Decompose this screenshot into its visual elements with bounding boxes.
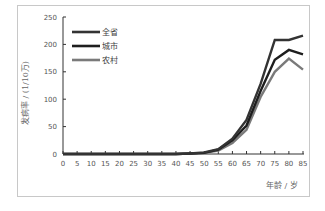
y-tick-label: 250 [44,14,57,22]
x-tick-label: 85 [299,160,308,168]
x-tick-label: 65 [242,160,251,168]
x-tick-label: 20 [115,160,124,168]
y-tick-label: 0 [53,151,57,159]
legend-label: 农村 [102,55,118,65]
x-tick-label: 80 [284,160,293,168]
x-tick-label: 40 [171,160,180,168]
axes: 0501001502002500510152025303540455055606… [44,14,308,169]
x-tick-label: 25 [129,160,138,168]
y-tick-label: 50 [48,123,57,131]
y-tick-label: 200 [44,41,57,49]
x-tick-label: 35 [157,160,166,168]
x-tick-label: 10 [87,160,96,168]
x-tick-label: 60 [228,160,237,168]
line-chart: 0501001502002500510152025303540455055606… [0,0,325,211]
x-tick-label: 0 [61,160,65,168]
y-tick-label: 100 [44,96,57,104]
x-tick-label: 5 [75,160,79,168]
x-axis-label: 年龄 / 岁 [266,180,298,190]
x-tick-label: 55 [214,160,223,168]
series-lines [63,36,303,154]
legend: 全省城市农村 [72,27,118,65]
legend-label: 全省 [102,27,118,37]
y-axis-label: 发病率 / (1/10万) [20,61,30,125]
x-tick-label: 75 [270,160,279,168]
legend-label: 城市 [102,41,118,51]
x-tick-label: 45 [186,160,195,168]
y-tick-label: 150 [44,68,57,76]
x-tick-label: 15 [101,160,110,168]
x-tick-label: 30 [143,160,152,168]
series-line-全省 [63,36,303,154]
x-tick-label: 70 [256,160,265,168]
x-tick-label: 50 [200,160,209,168]
series-line-农村 [63,59,303,154]
